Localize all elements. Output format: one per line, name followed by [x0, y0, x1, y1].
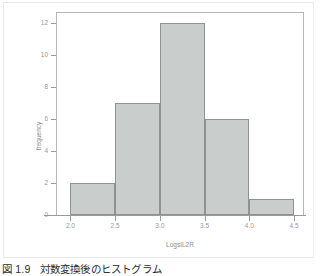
- histogram-bar: [205, 119, 250, 215]
- y-axis-tick-label: 4: [44, 148, 48, 155]
- x-axis-tick: [70, 216, 71, 221]
- x-axis-tick: [115, 216, 116, 221]
- plot-area: [57, 13, 303, 215]
- x-axis-title: LogsIL2R: [56, 241, 304, 248]
- y-axis-tick-label: 12: [41, 19, 48, 26]
- x-axis: 2.02.53.03.54.04.5: [57, 216, 303, 236]
- x-axis-tick-label: 3.5: [200, 223, 209, 230]
- x-axis-tick: [160, 216, 161, 221]
- x-axis-tick-label: 2.0: [66, 223, 75, 230]
- y-axis-tick-label: 6: [44, 116, 48, 123]
- histogram-bar: [70, 183, 115, 215]
- histogram-bar: [115, 103, 160, 215]
- figure-caption-number: 図 1.9: [2, 263, 31, 275]
- figure-caption-text: 対数変換後のヒストグラム: [40, 263, 162, 275]
- x-axis-tick-label: 4.0: [245, 223, 254, 230]
- histogram-bar: [160, 23, 205, 215]
- x-axis-tick: [249, 216, 250, 221]
- histogram-bars: [57, 13, 303, 215]
- x-axis-tick-label: 2.5: [111, 223, 120, 230]
- histogram-bar: [249, 199, 294, 215]
- y-axis-tick-label: 10: [41, 51, 48, 58]
- y-axis: 024681012: [0, 0, 56, 272]
- x-axis-tick: [205, 216, 206, 221]
- y-axis-tick-label: 8: [44, 83, 48, 90]
- x-axis-tick-label: 4.5: [290, 223, 299, 230]
- x-axis-tick-label: 3.0: [155, 223, 164, 230]
- y-axis-tick-label: 2: [44, 180, 48, 187]
- figure-caption: 図 1.9対数変換後のヒストグラム: [2, 261, 320, 276]
- x-axis-tick: [294, 216, 295, 221]
